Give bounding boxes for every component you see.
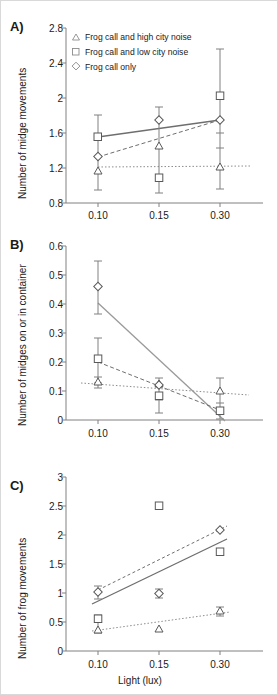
legend-square-icon [73, 49, 80, 56]
panel-b-marker-square-x1 [94, 355, 102, 363]
panel-a: A) Number of midge movements 2.8 2.4 2 1… [1, 3, 278, 231]
panel-a-marker-square-x1 [94, 133, 102, 141]
panel-a-trendline-high-noise [98, 166, 250, 167]
panel-b-ytick-marks [62, 246, 66, 420]
legend-diamond-icon [72, 62, 80, 70]
panel-b: B) Number of midges on or in container 0… [1, 223, 278, 451]
panel-c-marker-diamond-x3 [216, 526, 224, 534]
panel-b-trendline-call-only [98, 303, 225, 421]
panel-b-marker-square-x3 [216, 407, 224, 415]
panel-b-marker-diamond-x1 [94, 282, 102, 290]
panel-c-plot [1, 446, 278, 694]
panel-a-xtick-marks [98, 203, 220, 207]
panel-b-xtick-marks [98, 420, 220, 424]
panel-a-marker-square-x3 [216, 92, 224, 100]
panel-a-marker-diamond-x1 [94, 152, 102, 160]
panel-a-marker-diamond-x2 [155, 116, 163, 124]
panel-c-marker-diamond-x1 [94, 588, 102, 596]
panel-c-marker-triangle-x3 [216, 607, 224, 614]
legend: Frog call and high city noise Frog call … [72, 32, 192, 72]
panel-a-marker-triangle-x2 [155, 142, 163, 149]
panel-c-marker-square-x3 [216, 548, 224, 556]
panel-a-marker-square-x2 [155, 174, 163, 182]
panel-a-ytick-marks [62, 28, 66, 203]
panel-b-marker-triangle-x1 [94, 378, 102, 385]
panel-c-marker-square-x1 [94, 615, 102, 623]
legend-label-low-noise: Frog call and low city noise [85, 47, 188, 57]
panel-b-marker-triangle-x3 [216, 387, 224, 394]
panel-b-plot [1, 223, 278, 449]
figure-container: A) Number of midge movements 2.8 2.4 2 1… [0, 0, 278, 695]
panel-c-marker-triangle-x1 [94, 626, 102, 633]
legend-triangle-icon [73, 34, 80, 40]
panel-c: C) Number of frog movements 3 2.5 2 1.5 … [1, 446, 278, 694]
panel-a-marker-diamond-x3 [216, 116, 224, 124]
panel-a-plot: Frog call and high city noise Frog call … [1, 3, 278, 231]
panel-c-trendline-call-only [98, 526, 227, 590]
panel-b-marker-square-x2 [155, 392, 163, 400]
panel-b-marker-diamond-x2 [155, 381, 163, 389]
panel-c-marker-diamond-x2 [155, 589, 163, 597]
legend-label-call-only: Frog call only [85, 62, 137, 72]
panel-c-ytick-marks [62, 477, 66, 651]
panel-c-marker-square-x2 [155, 502, 163, 510]
legend-label-high-noise: Frog call and high city noise [85, 32, 192, 42]
panel-c-marker-triangle-x2 [155, 625, 163, 632]
panel-a-marker-triangle-x1 [94, 167, 102, 174]
panel-c-xtick-marks [98, 651, 220, 655]
